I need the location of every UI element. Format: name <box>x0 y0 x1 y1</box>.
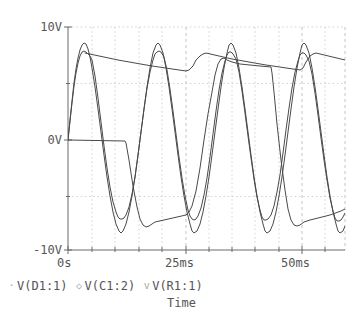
legend-entry-vd1[interactable]: ·V(D1:1) <box>6 278 68 293</box>
legend-entry-vr1[interactable]: vV(R1:1) <box>141 278 203 293</box>
legend: ·V(D1:1)◇V(C1:2)vV(R1:1) <box>6 278 209 293</box>
waveform-plot: 10V 0V -10V 0s 25ms 50ms ·V(D1:1)◇V(C1:2… <box>0 0 363 322</box>
legend-label-vc1: V(C1:2) <box>85 279 136 293</box>
legend-label-vd1: V(D1:1) <box>17 279 68 293</box>
x-axis-label-right: 50ms <box>281 256 310 270</box>
plot-canvas <box>0 0 363 322</box>
x-axis-title: Time <box>0 296 363 310</box>
legend-marker-vee-icon: v <box>141 280 152 291</box>
legend-marker-diamond-icon: ◇ <box>74 280 85 291</box>
y-axis-label-bottom: -10V <box>8 243 62 257</box>
legend-marker-dot-icon: · <box>6 280 17 291</box>
x-axis-label-left: 0s <box>57 256 71 270</box>
y-axis-label-top: 10V <box>16 20 62 34</box>
legend-label-vr1: V(R1:1) <box>152 279 203 293</box>
y-axis-label-mid: 0V <box>16 133 62 147</box>
x-axis-label-mid: 25ms <box>165 256 194 270</box>
legend-entry-vc1[interactable]: ◇V(C1:2) <box>74 278 136 293</box>
x-axis <box>68 246 345 254</box>
trace-vd1 <box>68 43 345 233</box>
